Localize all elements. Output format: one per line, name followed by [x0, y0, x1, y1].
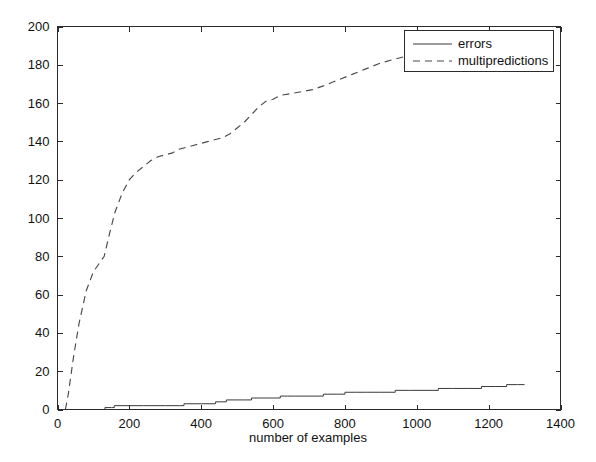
x-tick-label: 200 [119, 416, 141, 431]
figure-container: 0200400600800100012001400 02040608010012… [0, 0, 596, 462]
x-tick-label: 1400 [546, 416, 575, 431]
x-tick-label: 400 [190, 416, 212, 431]
x-tick-label: 800 [334, 416, 356, 431]
x-tick-label: 600 [262, 416, 284, 431]
x-tick-label: 0 [54, 416, 61, 431]
y-tick-label: 40 [35, 325, 49, 340]
x-tick-label: 1000 [402, 416, 431, 431]
y-tick-label: 100 [28, 211, 50, 226]
x-axis-label: number of examples [249, 430, 367, 445]
y-tick-label: 0 [42, 402, 49, 417]
y-tick-label: 200 [28, 19, 50, 34]
y-tick-label: 60 [35, 287, 49, 302]
legend-label-multipredictions: multipredictions [458, 53, 549, 68]
y-tick-label: 120 [28, 172, 50, 187]
y-tick-label: 140 [28, 134, 50, 149]
y-tick-label: 180 [28, 57, 50, 72]
legend-label-errors: errors [458, 36, 492, 51]
y-tick-label: 160 [28, 96, 50, 111]
legend: errors multipredictions [405, 31, 554, 72]
line-chart: 0200400600800100012001400 02040608010012… [0, 0, 596, 462]
x-tick-label: 1200 [474, 416, 503, 431]
y-tick-label: 80 [35, 249, 49, 264]
y-tick-label: 20 [35, 364, 49, 379]
